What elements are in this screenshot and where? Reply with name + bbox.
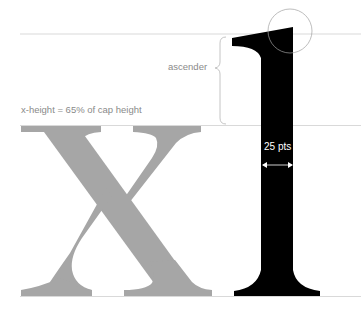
- ascender-brace: [215, 37, 226, 124]
- diagram-canvas: [0, 0, 361, 309]
- typography-diagram: ascender x-height = 65% of cap height 25…: [0, 0, 361, 309]
- x-glyph: [21, 126, 212, 296]
- x-height-note: x-height = 65% of cap height: [21, 104, 142, 115]
- ascender-label: ascender: [168, 61, 207, 72]
- l-glyph: [232, 27, 320, 296]
- stem-width-label: 25 pts: [264, 141, 291, 152]
